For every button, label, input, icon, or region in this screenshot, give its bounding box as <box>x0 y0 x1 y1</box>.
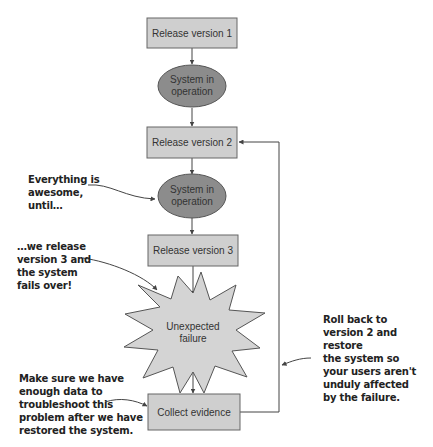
annotation-make-sure-data: Make sure we have enough data to trouble… <box>19 372 143 437</box>
node-label-line1: Unexpected <box>166 321 219 332</box>
node-label: Release version 1 <box>152 28 232 39</box>
edge-collect-release2-feedback <box>239 142 279 412</box>
annotation-everything-awesome: Everything is awesome, until… <box>28 173 99 212</box>
pointer-rollback <box>282 358 311 365</box>
node-label: Release version 2 <box>152 137 232 148</box>
node-label-line1: System in <box>170 184 214 195</box>
annotation-roll-back: Roll back to version 2 and restore the s… <box>323 313 433 404</box>
node-release-version-1: Release version 1 <box>147 18 237 48</box>
node-label-line2: operation <box>171 86 213 97</box>
pointer-release3 <box>83 258 157 290</box>
node-unexpected-failure: Unexpected failure <box>124 272 265 393</box>
node-collect-evidence: Collect evidence <box>148 394 240 430</box>
node-label-line1: System in <box>170 74 214 85</box>
node-label: Release version 3 <box>153 245 233 256</box>
node-release-version-2: Release version 2 <box>147 127 237 158</box>
node-label-line2: failure <box>179 333 207 344</box>
node-release-version-3: Release version 3 <box>148 235 238 266</box>
node-label: Collect evidence <box>157 407 231 418</box>
annotation-we-release-version-3: …we release version 3 and the system fai… <box>17 240 91 292</box>
node-system-in-operation-1: System in operation <box>158 65 226 107</box>
node-label-line2: operation <box>171 196 213 207</box>
node-system-in-operation-2: System in operation <box>158 174 226 218</box>
